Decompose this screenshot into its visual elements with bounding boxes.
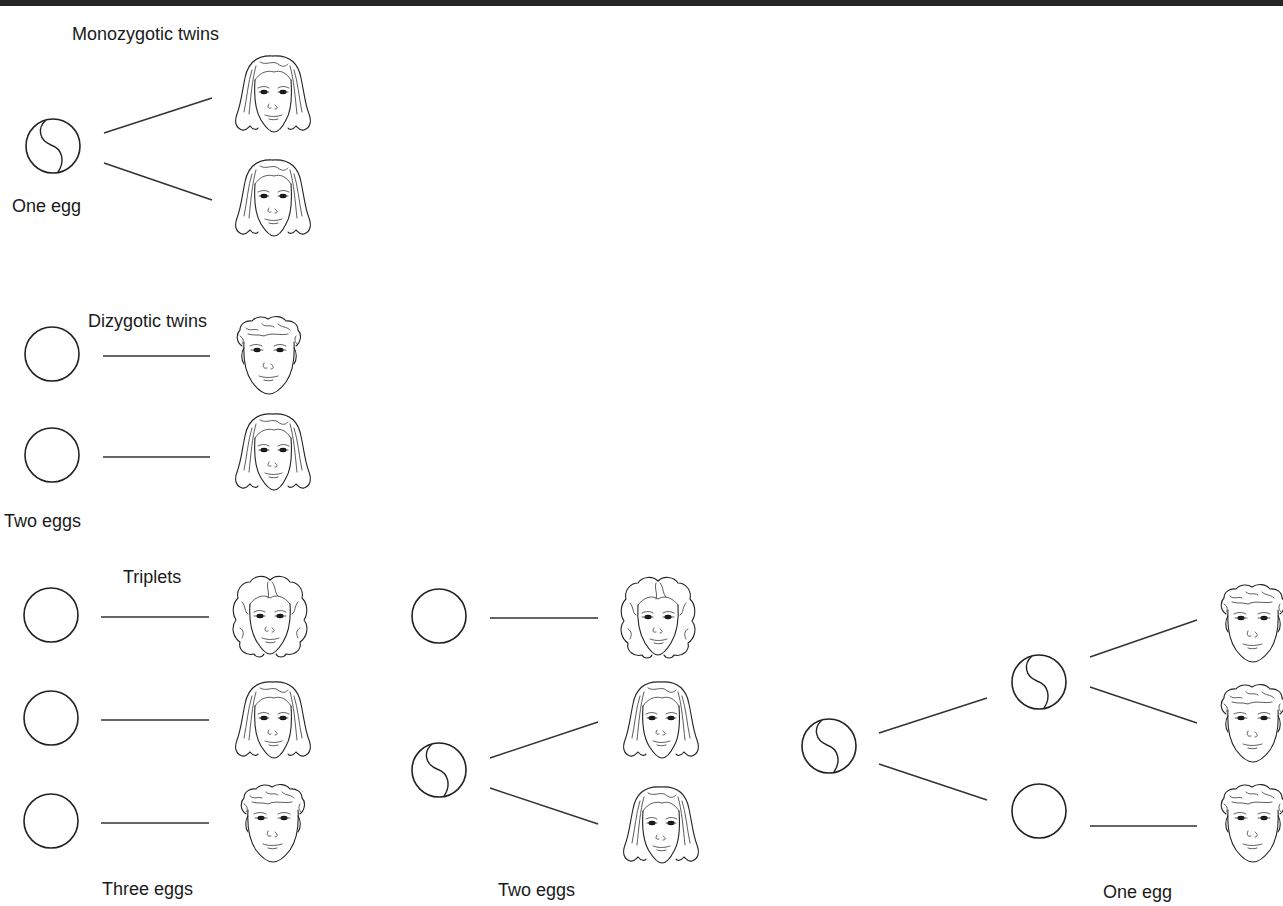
- three-eggs-label: Three eggs: [102, 879, 193, 899]
- male-curly-hair-face-icon: [1221, 585, 1283, 662]
- eggs: [24, 119, 1066, 848]
- female-long-hair-face-icon: [624, 787, 699, 863]
- dizygotic-title-label: Dizygotic twins: [88, 311, 207, 331]
- female-long-hair-face-icon: [236, 160, 311, 236]
- egg-icon: [24, 794, 78, 848]
- connector-line: [490, 722, 598, 758]
- faces: [233, 56, 1283, 863]
- female-long-hair-face-icon: [236, 56, 311, 132]
- male-curly-hair-face-icon: [241, 785, 304, 862]
- connector-line: [1090, 687, 1197, 723]
- triplets-title-label: Triplets: [123, 567, 181, 587]
- one-egg-mono-label: One egg: [12, 196, 81, 216]
- split-egg-icon: [26, 119, 80, 173]
- female-curly-hair-face-icon: [621, 577, 695, 658]
- connector-line: [490, 788, 598, 824]
- two-eggs-tri-label: Two eggs: [498, 880, 575, 900]
- one-egg-tri-label: One egg: [1103, 882, 1172, 902]
- connector-line: [104, 163, 212, 200]
- egg-icon: [25, 327, 79, 381]
- male-curly-hair-face-icon: [1221, 685, 1283, 762]
- connector-line: [104, 98, 212, 133]
- egg-icon: [1012, 784, 1066, 838]
- egg-icon: [412, 589, 466, 643]
- twins-triplets-diagram: Monozygotic twinsOne eggDizygotic twinsT…: [0, 0, 1283, 906]
- split-egg-icon: [802, 719, 856, 773]
- female-long-hair-face-icon: [236, 682, 311, 758]
- male-curly-hair-face-icon: [237, 317, 300, 394]
- female-long-hair-face-icon: [624, 682, 699, 758]
- egg-icon: [25, 428, 79, 482]
- connector-line: [1090, 620, 1197, 657]
- connector-line: [879, 764, 987, 800]
- female-long-hair-face-icon: [236, 414, 311, 490]
- male-curly-hair-face-icon: [1221, 785, 1283, 862]
- monozygotic-title-label: Monozygotic twins: [72, 24, 219, 44]
- two-eggs-di-label: Two eggs: [4, 511, 81, 531]
- egg-icon: [24, 691, 78, 745]
- split-egg-icon: [1012, 655, 1066, 709]
- connector-line: [879, 698, 987, 733]
- labels: Monozygotic twinsOne eggDizygotic twinsT…: [4, 24, 1172, 902]
- egg-icon: [24, 588, 78, 642]
- split-egg-icon: [412, 743, 466, 797]
- female-curly-hair-face-icon: [233, 576, 307, 657]
